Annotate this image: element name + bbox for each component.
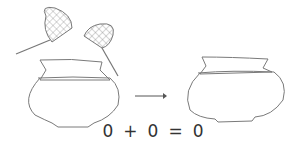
net-icon [16, 7, 72, 54]
left-pot-icon [29, 59, 119, 127]
equals-sign: = [168, 121, 182, 141]
equation: 0 + 0 = 0 [98, 121, 208, 141]
right-operand: 0 [148, 121, 159, 141]
result: 0 [193, 121, 204, 141]
right-pot-icon [188, 57, 285, 122]
arrow-right-icon [135, 93, 167, 99]
left-operand: 0 [103, 121, 114, 141]
plus-operator: + [123, 121, 137, 141]
